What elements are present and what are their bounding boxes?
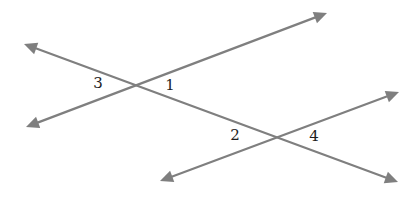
upper-line <box>36 17 316 123</box>
angle-label-1: 1 <box>165 78 175 93</box>
angle-label-2: 2 <box>230 128 240 143</box>
lower-line-start-arrow-icon <box>160 171 174 182</box>
angle-label-4: 4 <box>309 129 319 144</box>
angles-diagram <box>0 0 418 199</box>
upper-line-start-arrow-icon <box>26 117 40 128</box>
angle-label-3: 3 <box>93 76 103 91</box>
lower-line <box>170 96 388 177</box>
transversal-start-arrow-icon <box>24 43 38 54</box>
transversal <box>34 48 387 178</box>
upper-line-end-arrow-icon <box>313 12 327 23</box>
lower-line-end-arrow-icon <box>385 91 399 102</box>
transversal-end-arrow-icon <box>384 172 398 183</box>
